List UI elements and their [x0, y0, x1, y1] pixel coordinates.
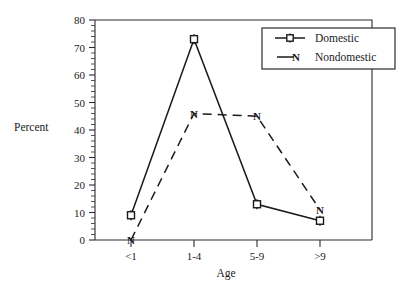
data-point-nondomestic-lt1: N — [127, 234, 135, 246]
y-tick-label-0: 0 — [80, 234, 86, 246]
x-axis-title: Age — [216, 267, 235, 280]
x-tick-label-gt9: >9 — [314, 250, 326, 262]
legend-label-domestic: Domestic — [315, 32, 359, 44]
legend-label-nondomestic: Nondomestic — [315, 51, 376, 63]
y-tick-label-40: 40 — [74, 124, 86, 136]
n-marker: N — [292, 51, 300, 63]
data-point-domestic-lt1 — [128, 210, 135, 220]
line-chart-svg: 80 70 60 50 40 30 20 10 0 Percent <1 1-4… — [0, 0, 412, 285]
x-tick-label-lt1: <1 — [125, 250, 137, 262]
square-marker — [287, 34, 293, 43]
data-point-domestic-5-9 — [254, 199, 261, 209]
y-tick-label-60: 60 — [74, 69, 86, 81]
y-tick-label-70: 70 — [74, 42, 86, 54]
data-point-nondomestic-5-9: N — [253, 110, 261, 122]
x-axis-ticks — [131, 240, 320, 247]
y-tick-label-80: 80 — [74, 14, 86, 26]
y-tick-label-20: 20 — [74, 179, 86, 191]
y-tick-label-50: 50 — [74, 97, 86, 109]
y-axis-title: Percent — [14, 121, 49, 133]
data-point-nondomestic-1-4: N — [190, 108, 198, 120]
series-line-nondomestic — [131, 114, 320, 241]
y-tick-label-30: 30 — [74, 152, 86, 164]
y-tick-label-10: 10 — [74, 207, 86, 219]
legend-entry-nondomestic[interactable]: N Nondomestic — [277, 51, 376, 63]
data-point-nondomestic-gt9: N — [316, 204, 324, 216]
data-point-domestic-1-4 — [191, 34, 198, 44]
chart-legend: Domestic N Nondomestic — [262, 28, 395, 69]
x-tick-label-1-4: 1-4 — [187, 250, 202, 262]
data-point-domestic-gt9 — [317, 216, 324, 226]
x-tick-label-5-9: 5-9 — [250, 250, 265, 262]
chart-container: 80 70 60 50 40 30 20 10 0 Percent <1 1-4… — [0, 0, 412, 285]
series-markers-nondomestic: N N N N — [127, 108, 324, 247]
